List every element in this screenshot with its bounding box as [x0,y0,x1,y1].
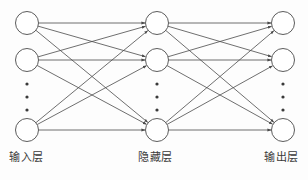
ellipsis-dot [25,82,28,85]
input-layer-label: 输入层 [9,152,44,163]
ellipsis-dot [281,95,284,98]
hidden-layer-label: 隐藏层 [138,152,173,163]
ellipsis-dot [281,108,284,111]
node-o2[interactable] [272,49,295,72]
node-i2[interactable] [16,49,39,72]
ellipsis-dot [155,82,158,85]
neural-network-diagram: 输入层 隐藏层 输出层 [0,0,308,180]
output-layer-label: 输出层 [264,152,299,163]
ellipsis-group [25,82,284,111]
node-h2[interactable] [146,49,169,72]
edge-group [36,23,274,130]
ellipsis-dot [155,108,158,111]
node-i3[interactable] [16,119,39,142]
ellipsis-dot [155,95,158,98]
node-o1[interactable] [272,12,295,35]
node-h3[interactable] [146,119,169,142]
node-i1[interactable] [16,12,39,35]
ellipsis-dot [25,95,28,98]
ellipsis-dot [281,82,284,85]
node-h1[interactable] [146,12,169,35]
node-o3[interactable] [272,119,295,142]
ellipsis-dot [25,108,28,111]
